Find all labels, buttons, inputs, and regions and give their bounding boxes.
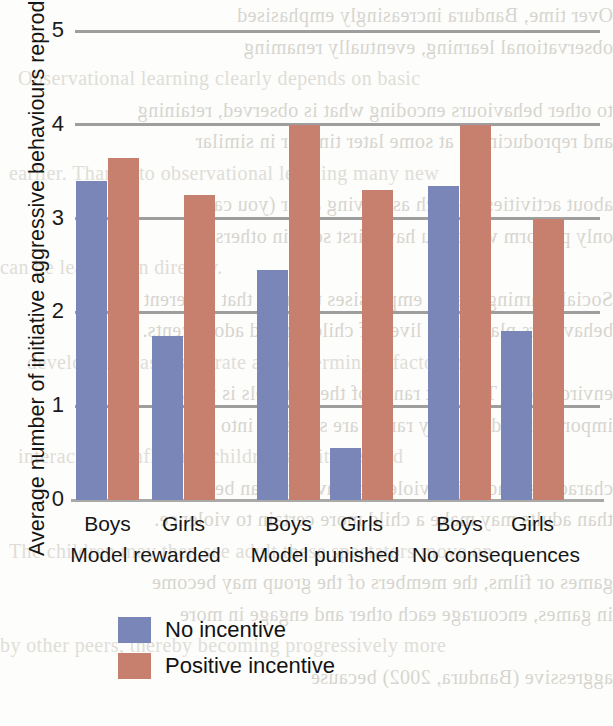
bar [257, 270, 288, 500]
chart-legend: No incentivePositive incentive [118, 612, 335, 684]
legend-swatch [118, 617, 151, 643]
legend-item: No incentive [118, 612, 335, 648]
y-tick-label: 1 [38, 394, 64, 416]
bar [289, 125, 320, 500]
gridline [75, 217, 600, 220]
bar [428, 186, 459, 500]
bar [460, 125, 491, 500]
y-tick-label: 3 [38, 207, 64, 229]
bar [362, 190, 393, 500]
x-group-label: No consequences [386, 543, 606, 567]
x-category-label: Girls [483, 512, 583, 536]
plot-area [75, 31, 600, 500]
legend-swatch [118, 653, 151, 679]
y-axis-title: Average number of initiative aggressive … [25, 0, 55, 556]
bar [76, 181, 107, 500]
gridline [75, 123, 600, 126]
legend-label: No incentive [165, 617, 286, 643]
y-tick-label: 2 [38, 300, 64, 322]
bar [152, 336, 183, 500]
gridline [75, 311, 600, 314]
bar [501, 331, 532, 500]
legend-label: Positive incentive [165, 653, 335, 679]
y-tick-label: 0 [38, 488, 64, 510]
x-category-label: Girls [134, 512, 234, 536]
bar [184, 195, 215, 500]
legend-item: Positive incentive [118, 648, 335, 684]
y-tick-label: 5 [38, 19, 64, 41]
bar [108, 158, 139, 500]
bar [330, 448, 361, 500]
x-category-label: Girls [312, 512, 412, 536]
bar [533, 219, 564, 500]
y-tick-label: 4 [38, 113, 64, 135]
gridline [75, 30, 600, 33]
